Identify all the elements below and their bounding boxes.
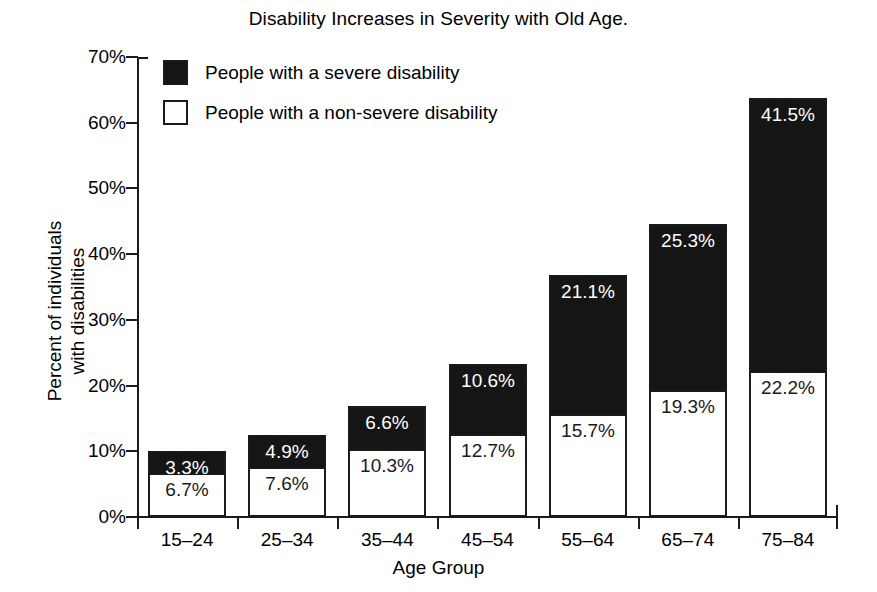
bar-segment-severe[interactable]: 4.9% bbox=[248, 435, 326, 469]
bar-segment-non-severe[interactable]: 22.2% bbox=[749, 371, 827, 517]
x-axis-tick bbox=[337, 517, 339, 529]
bar-value-label: 15.7% bbox=[561, 416, 615, 440]
y-axis-tick bbox=[126, 319, 138, 321]
bar-segment-non-severe[interactable]: 19.3% bbox=[649, 390, 727, 517]
bar-segment-severe[interactable]: 3.3% bbox=[148, 451, 226, 475]
bar-segment-non-severe[interactable]: 10.3% bbox=[348, 449, 426, 517]
chart-title: Disability Increases in Severity with Ol… bbox=[0, 8, 877, 30]
x-axis-tick bbox=[638, 517, 640, 529]
bar-group[interactable]: 15.7%21.1% bbox=[549, 57, 627, 517]
legend-item[interactable]: People with a non-severe disability bbox=[163, 100, 498, 125]
y-axis-top-cap bbox=[137, 57, 148, 59]
bar-value-label: 22.2% bbox=[761, 373, 815, 397]
x-axis-tick bbox=[137, 517, 139, 529]
bar-segment-severe[interactable]: 6.6% bbox=[348, 406, 426, 451]
y-axis-tick bbox=[126, 385, 138, 387]
x-axis-tick bbox=[437, 517, 439, 529]
bar-segment-severe[interactable]: 10.6% bbox=[449, 364, 527, 436]
bar-value-label: 10.3% bbox=[360, 451, 414, 475]
legend-label: People with a severe disability bbox=[205, 62, 460, 84]
bar-segment-non-severe[interactable]: 12.7% bbox=[449, 434, 527, 517]
bar-value-label: 10.6% bbox=[461, 366, 515, 390]
x-axis-tick bbox=[538, 517, 540, 529]
bar-value-label: 25.3% bbox=[661, 226, 715, 250]
bar-value-label: 19.3% bbox=[661, 392, 715, 416]
bar-value-label: 3.3% bbox=[165, 453, 208, 477]
y-axis-title: Percent of individuals with disabilities bbox=[43, 161, 89, 461]
y-axis-title-line-2: with disabilities bbox=[66, 161, 89, 461]
y-axis-tick bbox=[126, 56, 138, 58]
x-axis-tick bbox=[738, 517, 740, 529]
bar-segment-non-severe[interactable]: 15.7% bbox=[549, 414, 627, 517]
bar-group[interactable]: 6.7%3.3% bbox=[148, 57, 226, 517]
y-axis-line bbox=[137, 57, 139, 518]
bar-segment-non-severe[interactable]: 7.6% bbox=[248, 467, 326, 517]
bar-value-label: 7.6% bbox=[265, 469, 308, 493]
legend-swatch-non-severe-icon bbox=[163, 100, 188, 125]
bar-value-label: 41.5% bbox=[761, 100, 815, 124]
x-axis-tick-label: 75–84 bbox=[728, 529, 848, 551]
y-axis-tick bbox=[126, 253, 138, 255]
bar-group[interactable]: 19.3%25.3% bbox=[649, 57, 727, 517]
bar-value-label: 12.7% bbox=[461, 436, 515, 460]
bar-value-label: 4.9% bbox=[265, 437, 308, 461]
bar-value-label: 21.1% bbox=[561, 277, 615, 301]
bar-value-label: 6.6% bbox=[365, 408, 408, 432]
bar-value-label: 6.7% bbox=[165, 475, 208, 499]
y-axis-tick-label: 0% bbox=[64, 507, 126, 526]
bar-group[interactable]: 7.6%4.9% bbox=[248, 57, 326, 517]
bar-segment-non-severe[interactable]: 6.7% bbox=[148, 473, 226, 517]
legend-label: People with a non-severe disability bbox=[205, 102, 498, 124]
y-axis-tick bbox=[126, 187, 138, 189]
bar-group[interactable]: 10.3%6.6% bbox=[348, 57, 426, 517]
y-axis-tick-label: 70% bbox=[64, 47, 126, 66]
y-axis-tick-label: 60% bbox=[64, 113, 126, 132]
x-axis-tick bbox=[237, 517, 239, 529]
bar-segment-severe[interactable]: 41.5% bbox=[749, 98, 827, 373]
bar-segment-severe[interactable]: 25.3% bbox=[649, 224, 727, 392]
bar-segment-severe[interactable]: 21.1% bbox=[549, 275, 627, 416]
x-axis-title: Age Group bbox=[0, 557, 877, 579]
bar-group[interactable]: 12.7%10.6% bbox=[449, 57, 527, 517]
bar-group[interactable]: 22.2%41.5% bbox=[749, 57, 827, 517]
chart-canvas: Disability Increases in Severity with Ol… bbox=[0, 0, 877, 592]
y-axis-title-line-1: Percent of individuals bbox=[43, 161, 66, 461]
legend-item[interactable]: People with a severe disability bbox=[163, 60, 460, 85]
y-axis-tick bbox=[126, 122, 138, 124]
y-axis-tick bbox=[126, 450, 138, 452]
x-axis-tick bbox=[836, 517, 838, 529]
legend-swatch-severe-icon bbox=[163, 60, 188, 85]
